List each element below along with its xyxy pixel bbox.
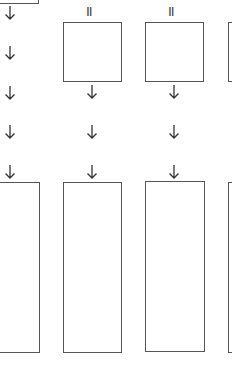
col2-arrow-3-icon [86, 164, 98, 180]
col2-top-box [63, 22, 122, 82]
col3-top-box [145, 22, 204, 82]
col1-arrow-2-icon [4, 45, 16, 61]
col2-bottom-box [63, 182, 122, 353]
col4-top-box [228, 22, 232, 82]
col1-arrow-4-icon [4, 124, 16, 140]
col1-arrow-3-icon [4, 85, 16, 101]
col1-bottom-box [0, 182, 40, 353]
col2-parallel-mark: II [86, 5, 92, 19]
col3-arrow-3-icon [168, 164, 180, 180]
col2-arrow-1-icon [86, 84, 98, 100]
col1-arrow-1-icon [4, 5, 16, 21]
col4-bottom-box [228, 182, 232, 353]
col3-bottom-box [145, 181, 205, 352]
col2-arrow-2-icon [86, 124, 98, 140]
col1-top-box [0, 0, 39, 4]
col3-arrow-2-icon [168, 124, 180, 140]
col3-parallel-mark: II [168, 5, 174, 19]
col1-arrow-5-icon [4, 164, 16, 180]
col3-arrow-1-icon [168, 84, 180, 100]
